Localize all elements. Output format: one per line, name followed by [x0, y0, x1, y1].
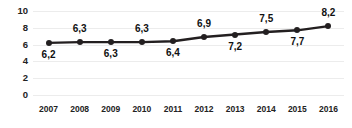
- y-axis: 0246810: [0, 0, 30, 128]
- data-point-label: 7,7: [290, 37, 304, 47]
- plot-area: 6,26,36,36,36,46,97,27,57,78,2: [33, 11, 344, 95]
- data-point-marker: [46, 40, 52, 46]
- y-tick-label: 0: [0, 90, 28, 100]
- y-tick-label: 8: [0, 23, 28, 33]
- line-chart: 0246810 6,26,36,36,36,46,97,27,57,78,2 2…: [0, 0, 352, 128]
- data-point-label: 6,2: [42, 50, 56, 60]
- data-point-label: 6,4: [166, 48, 180, 58]
- data-point-label: 6,3: [73, 24, 87, 34]
- y-tick-label: 4: [0, 56, 28, 66]
- data-point-marker: [108, 39, 114, 45]
- gridline: [33, 95, 344, 96]
- data-point-label: 6,3: [135, 24, 149, 34]
- data-point-label: 6,9: [197, 19, 211, 29]
- data-point-label: 7,2: [228, 42, 242, 52]
- data-point-marker: [232, 32, 238, 38]
- data-point-marker: [139, 39, 145, 45]
- y-tick-label: 6: [0, 40, 28, 50]
- y-tick-label: 2: [0, 73, 28, 83]
- data-point-label: 7,5: [259, 14, 273, 24]
- data-point-label: 8,2: [321, 8, 335, 18]
- data-point-label: 6,3: [104, 49, 118, 59]
- y-tick-label: 10: [0, 6, 28, 16]
- x-tick-label: 2016: [308, 105, 348, 114]
- data-point-marker: [77, 39, 83, 45]
